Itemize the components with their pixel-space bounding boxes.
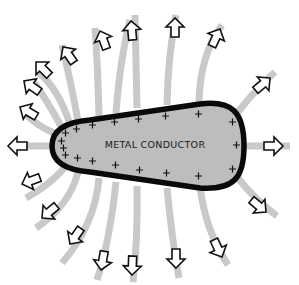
arrow-icon [123,256,142,276]
conductor-field-diagram: METAL CONDUCTOR [0,0,299,285]
arrow-icon [166,18,184,37]
arrow-icon [167,249,185,268]
conductor-label: METAL CONDUCTOR [105,139,206,150]
arrow-icon [264,137,283,155]
arrow-icon [8,137,27,155]
arrow-icon [92,250,113,272]
